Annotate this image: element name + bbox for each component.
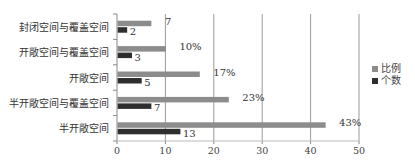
bar-比例 <box>118 122 326 128</box>
bar-chart: 01020304050封闭空间与覆盖空间开敞空间与覆盖空间开敞空间半开敞空间与覆… <box>0 0 415 167</box>
data-label: 3 <box>135 52 141 63</box>
legend-swatch <box>372 78 378 84</box>
x-tick-label: 0 <box>114 145 120 156</box>
category-label: 半开敞空间与覆盖空间 <box>9 97 109 109</box>
x-tick-label: 50 <box>353 145 365 156</box>
bar-比例 <box>118 72 200 78</box>
gridlines <box>165 14 359 141</box>
bar-个数 <box>118 78 142 84</box>
bar-个数 <box>118 129 181 135</box>
bar-比例 <box>118 97 229 103</box>
category-label: 封闭空间与覆盖空间 <box>19 21 109 33</box>
x-tick-label: 30 <box>256 145 268 156</box>
bar-个数 <box>118 103 152 109</box>
legend: 比例个数 <box>372 62 401 86</box>
labels: 01020304050封闭空间与覆盖空间开敞空间与覆盖空间开敞空间半开敞空间与覆… <box>9 16 365 156</box>
x-tick-label: 20 <box>208 145 220 156</box>
legend-label: 个数 <box>381 74 401 86</box>
bar-个数 <box>118 27 128 33</box>
x-tick-label: 40 <box>305 145 317 156</box>
legend-label: 比例 <box>381 62 401 74</box>
data-label: 7 <box>154 102 160 113</box>
category-label: 开敞空间 <box>69 72 109 84</box>
data-label: 23% <box>242 92 264 103</box>
data-label: 7 <box>165 16 171 27</box>
x-tick-label: 10 <box>159 145 171 156</box>
legend-swatch <box>372 66 378 72</box>
data-label: 2 <box>130 26 136 37</box>
category-label: 开敞空间与覆盖空间 <box>19 46 109 58</box>
data-label: 43% <box>339 117 361 128</box>
data-label: 17% <box>213 67 235 78</box>
bar-比例 <box>118 46 166 52</box>
data-label: 10% <box>179 41 201 52</box>
category-label: 半开敞空间 <box>59 122 109 134</box>
bar-个数 <box>118 53 133 59</box>
data-label: 5 <box>144 77 150 88</box>
data-label: 13 <box>183 128 196 139</box>
